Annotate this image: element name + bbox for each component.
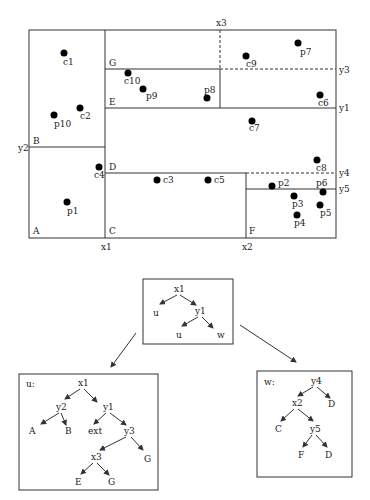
point-p1: p1 bbox=[64, 199, 79, 217]
tree-leaf-F: F bbox=[298, 450, 304, 460]
tree-leaf-G: G bbox=[108, 477, 115, 487]
tree-node-y2: y2 bbox=[55, 402, 67, 412]
spatial-partition: x1 x2 x3 y1 y2 y3 y4 y5 A B C D E F G c1… bbox=[17, 18, 350, 252]
region-label-G: G bbox=[109, 58, 116, 68]
root-tree: x1 u y1 u w bbox=[143, 279, 233, 344]
point-c9: c9 bbox=[243, 53, 258, 70]
tree-node-x1: x1 bbox=[174, 284, 185, 294]
tree-leaf-w: w bbox=[217, 330, 225, 340]
tree-leaf-ext: ext bbox=[88, 426, 102, 436]
tree-leaf-E: E bbox=[75, 477, 82, 487]
axis-label-x1: x1 bbox=[101, 242, 112, 252]
svg-text:c4: c4 bbox=[94, 170, 105, 180]
svg-text:c10: c10 bbox=[124, 76, 141, 86]
tree-leaf-u: u bbox=[153, 308, 159, 318]
tree-node-y4: y4 bbox=[310, 376, 322, 386]
axis-label-y5: y5 bbox=[338, 184, 350, 194]
svg-text:p10: p10 bbox=[54, 119, 71, 129]
axis-label-x2: x2 bbox=[242, 242, 253, 252]
w-subtree: w: y4 D x2 C y5 F D bbox=[257, 371, 352, 477]
expand-arrow-u bbox=[111, 333, 136, 367]
kd-tree-diagram: x1 x2 x3 y1 y2 y3 y4 y5 A B C D E F G c1… bbox=[0, 0, 370, 500]
point-c1: c1 bbox=[61, 50, 74, 68]
tree-node-y1: y1 bbox=[194, 306, 206, 316]
point-c6: c6 bbox=[317, 92, 330, 109]
region-label-A: A bbox=[32, 226, 40, 236]
point-p7: p7 bbox=[295, 40, 312, 58]
tree-leaf-A: A bbox=[28, 426, 36, 436]
point-c3: c3 bbox=[154, 175, 175, 185]
tree-leaf-u: u bbox=[176, 330, 182, 340]
svg-text:p3: p3 bbox=[292, 199, 304, 209]
expand-arrow-w bbox=[240, 325, 296, 362]
point-p5: p5 bbox=[317, 202, 332, 219]
axis-label-y4: y4 bbox=[338, 168, 350, 178]
region-label-B: B bbox=[33, 136, 40, 146]
svg-text:p4: p4 bbox=[294, 218, 306, 228]
axis-label-y2: y2 bbox=[17, 143, 29, 153]
region-label-C: C bbox=[109, 226, 116, 236]
point-p10: p10 bbox=[51, 112, 72, 130]
tree-node-y5: y5 bbox=[309, 424, 321, 434]
point-c7: c7 bbox=[249, 118, 261, 134]
svg-text:c3: c3 bbox=[163, 175, 174, 185]
w-subtree-title: w: bbox=[264, 377, 275, 387]
svg-text:p8: p8 bbox=[204, 85, 216, 95]
tree-node-x1: x1 bbox=[78, 378, 89, 388]
point-c2: c2 bbox=[77, 105, 91, 122]
point-p2: p2 bbox=[269, 178, 290, 190]
svg-text:p1: p1 bbox=[67, 206, 79, 216]
point-c5: c5 bbox=[205, 175, 226, 185]
svg-text:c9: c9 bbox=[246, 59, 257, 69]
svg-text:c6: c6 bbox=[318, 98, 329, 108]
axis-label-y1: y1 bbox=[338, 103, 350, 113]
point-p4: p4 bbox=[294, 212, 306, 229]
tree-leaf-D: D bbox=[325, 450, 332, 460]
point-c4: c4 bbox=[94, 164, 105, 181]
tree-leaf-B: B bbox=[65, 426, 72, 436]
axis-label-y3: y3 bbox=[338, 65, 350, 75]
svg-text:p7: p7 bbox=[300, 47, 312, 57]
region-label-F: F bbox=[249, 226, 255, 236]
point-p6: p6 bbox=[316, 178, 328, 196]
svg-text:p5: p5 bbox=[320, 208, 332, 218]
tree-node-y3: y3 bbox=[123, 426, 135, 436]
point-p8: p8 bbox=[204, 85, 216, 102]
point-c10: c10 bbox=[124, 70, 141, 87]
tree-leaf-D: D bbox=[328, 399, 335, 409]
region-label-D: D bbox=[109, 162, 116, 172]
tree-node-x3: x3 bbox=[91, 452, 102, 462]
svg-text:p9: p9 bbox=[146, 91, 158, 101]
u-subtree-title: u: bbox=[26, 379, 35, 389]
u-subtree: u: x1 y2 A B y1 ext y3 G x3 E G bbox=[19, 374, 158, 490]
point-p9: p9 bbox=[140, 86, 158, 102]
svg-text:c1: c1 bbox=[63, 57, 74, 67]
tree-node-y1: y1 bbox=[102, 402, 114, 412]
svg-text:c5: c5 bbox=[214, 175, 225, 185]
svg-text:p2: p2 bbox=[278, 178, 290, 188]
svg-text:c2: c2 bbox=[80, 111, 91, 121]
point-p3: p3 bbox=[291, 193, 304, 210]
region-label-E: E bbox=[109, 97, 116, 107]
tree-leaf-G: G bbox=[144, 454, 151, 464]
svg-text:c7: c7 bbox=[249, 123, 260, 133]
svg-text:c8: c8 bbox=[316, 163, 327, 173]
axis-label-x3: x3 bbox=[216, 18, 227, 28]
svg-text:p6: p6 bbox=[316, 178, 328, 188]
point-c8: c8 bbox=[314, 157, 328, 174]
tree-leaf-C: C bbox=[275, 424, 282, 434]
tree-node-x2: x2 bbox=[292, 398, 303, 408]
